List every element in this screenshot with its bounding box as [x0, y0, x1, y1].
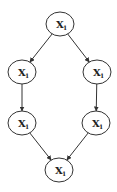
edge-top-to-right-mid — [68, 34, 90, 62]
edge-left-lower-to-bottom — [30, 133, 51, 160]
node-label-subscript: 1 — [63, 24, 67, 31]
node-label-subscript: 1 — [25, 72, 29, 79]
node-left-mid: X1 — [8, 60, 36, 84]
node-top: X1 — [46, 12, 74, 36]
nodes-group: X1X1X1X1X1X1 — [8, 12, 111, 182]
node-label-subscript: 1 — [25, 123, 29, 130]
node-left-lower: X1 — [8, 111, 36, 135]
node-label-subscript: 1 — [100, 72, 104, 79]
edge-top-to-left-mid — [30, 34, 52, 62]
node-right-lower: X1 — [82, 111, 110, 135]
node-bottom: X1 — [45, 158, 73, 182]
node-label-subscript: 1 — [62, 170, 66, 177]
edge-right-lower-to-bottom — [67, 133, 88, 160]
edges-group — [22, 34, 97, 160]
node-right-mid: X1 — [83, 60, 111, 84]
node-label-subscript: 1 — [99, 123, 103, 130]
directed-graph: X1X1X1X1X1X1 — [0, 0, 117, 192]
edge-right-mid-to-right-lower — [96, 84, 97, 111]
